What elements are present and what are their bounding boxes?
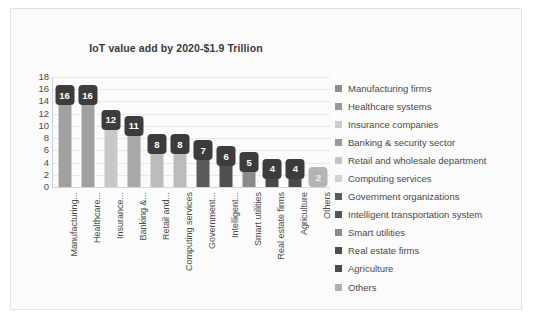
legend-swatch-icon — [335, 139, 342, 146]
bar-value-label: 4 — [286, 159, 305, 179]
y-tick-label: 8 — [19, 133, 49, 143]
x-label-slot: Insurance... — [99, 190, 122, 295]
bar-group[interactable]: 6 — [215, 77, 238, 187]
y-axis: 181614121086420 — [19, 71, 49, 193]
legend-item[interactable]: Banking & security sector — [335, 133, 515, 151]
y-tick-label: 14 — [19, 97, 49, 107]
x-label-slot: Intelligent... — [215, 190, 238, 295]
bar-value-label: 2 — [309, 167, 328, 187]
bar-value-label: 4 — [263, 159, 282, 179]
legend-item-label: Agriculture — [348, 263, 393, 274]
bar-group[interactable]: 8 — [168, 77, 191, 187]
legend-item[interactable]: Retail and wholesale department — [335, 151, 515, 169]
legend-item[interactable]: Insurance companies — [335, 115, 515, 133]
legend-swatch-icon — [335, 103, 342, 110]
x-label-slot: Retail and... — [145, 190, 168, 295]
x-label-slot: Healthcare... — [76, 190, 99, 295]
bar-value-label: 8 — [147, 134, 166, 154]
legend-item-label: Others — [348, 282, 377, 293]
legend-swatch-icon — [335, 175, 342, 182]
bar-value-label: 6 — [217, 146, 236, 166]
legend-item[interactable]: Real estate firms — [335, 242, 515, 260]
legend-item-label: Retail and wholesale department — [348, 155, 486, 166]
x-axis-tick-label: Others — [322, 192, 332, 219]
y-tick-label: 2 — [19, 170, 49, 180]
legend-item-label: Healthcare systems — [348, 101, 431, 112]
x-label-slot: Government... — [192, 190, 215, 295]
legend-swatch-icon — [335, 157, 342, 164]
bar-value-label: 11 — [124, 116, 143, 136]
y-tick-label: 10 — [19, 121, 49, 131]
legend-item-label: Banking & security sector — [348, 137, 455, 148]
legend-swatch-icon — [335, 211, 342, 218]
bar-value-label: 16 — [78, 85, 97, 105]
gridline-0 — [53, 187, 330, 188]
legend-item-label: Smart utilities — [348, 227, 405, 238]
bar-value-label: 16 — [55, 85, 74, 105]
legend-item[interactable]: Manufacturing firms — [335, 79, 515, 97]
legend-item-label: Government organizations — [348, 191, 459, 202]
bar-value-label: 12 — [101, 110, 120, 130]
legend-item-label: Computing services — [348, 173, 431, 184]
y-tick-label: 16 — [19, 84, 49, 94]
x-label-slot: Others — [307, 190, 330, 295]
bar-group[interactable]: 2 — [307, 77, 330, 187]
bar-group[interactable]: 16 — [53, 77, 76, 187]
y-tick-label: 12 — [19, 109, 49, 119]
legend-item[interactable]: Intelligent transportation system — [335, 206, 515, 224]
bar-value-label: 7 — [194, 140, 213, 160]
legend-item-label: Intelligent transportation system — [348, 209, 482, 220]
bar-value-label: 5 — [240, 152, 259, 172]
bar-group[interactable]: 4 — [284, 77, 307, 187]
bar-group[interactable]: 12 — [99, 77, 122, 187]
x-label-slot: Banking &... — [122, 190, 145, 295]
legend-item[interactable]: Government organizations — [335, 188, 515, 206]
x-label-slot: Agriculture — [284, 190, 307, 295]
x-label-slot: Manufacturing... — [53, 190, 76, 295]
y-tick-label: 0 — [19, 182, 49, 192]
legend-item[interactable]: Agriculture — [335, 260, 515, 278]
legend-swatch-icon — [335, 193, 342, 200]
bar-group[interactable]: 11 — [122, 77, 145, 187]
x-axis-labels: Manufacturing...Healthcare...Insurance..… — [53, 190, 330, 295]
legend-swatch-icon — [335, 265, 342, 272]
bar-value-label: 8 — [170, 134, 189, 154]
chart-card: IoT value add by 2020-$1.9 Trillion 1816… — [10, 8, 522, 310]
bar-group[interactable]: 5 — [238, 77, 261, 187]
x-label-slot: Computing services — [168, 190, 191, 295]
legend-item[interactable]: Others — [335, 278, 515, 296]
legend-swatch-icon — [335, 284, 342, 291]
legend-swatch-icon — [335, 121, 342, 128]
legend-swatch-icon — [335, 229, 342, 236]
y-tick-label: 18 — [19, 72, 49, 82]
plot-area: 1616121188765442 — [53, 77, 330, 187]
bar-group[interactable]: 8 — [145, 77, 168, 187]
legend-swatch-icon — [335, 85, 342, 92]
bar-group[interactable]: 7 — [192, 77, 215, 187]
legend-item[interactable]: Computing services — [335, 169, 515, 187]
y-tick-label: 4 — [19, 158, 49, 168]
y-tick-label: 6 — [19, 146, 49, 156]
legend-item-label: Insurance companies — [348, 119, 438, 130]
legend-swatch-icon — [335, 247, 342, 254]
legend-item-label: Real estate firms — [348, 245, 419, 256]
chart-title: IoT value add by 2020-$1.9 Trillion — [11, 42, 341, 54]
legend-item[interactable]: Smart utilities — [335, 224, 515, 242]
bar-group[interactable]: 4 — [261, 77, 284, 187]
legend-item[interactable]: Healthcare systems — [335, 97, 515, 115]
legend-item-label: Manufacturing firms — [348, 83, 431, 94]
x-label-slot: Smart utilities — [238, 190, 261, 295]
x-label-slot: Real estate firms — [261, 190, 284, 295]
chart-legend: Manufacturing firmsHealthcare systemsIns… — [335, 79, 515, 296]
bar-group[interactable]: 16 — [76, 77, 99, 187]
